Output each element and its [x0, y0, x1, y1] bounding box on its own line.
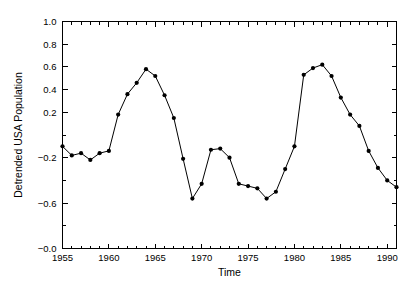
data-point-marker [200, 182, 204, 186]
chart-figure: −0.0−0.6−0.20.20.40.60.81.01955196019651… [0, 0, 415, 297]
x-tick-label: 1965 [145, 252, 166, 263]
data-point-marker [376, 166, 380, 170]
data-point-marker [153, 74, 157, 78]
data-point-marker [79, 151, 83, 155]
plot-area: −0.0−0.6−0.20.20.40.60.81.01955196019651… [12, 16, 399, 278]
data-point-marker [385, 178, 389, 182]
data-point-marker [367, 149, 371, 153]
data-point-marker [190, 196, 194, 200]
x-axis-title: Time [218, 266, 241, 278]
data-point-marker [311, 66, 315, 70]
data-point-marker [116, 112, 120, 116]
data-point-marker [70, 153, 74, 157]
data-point-marker [246, 184, 250, 188]
x-tick-label: 1990 [377, 252, 398, 263]
detrended-usa-population-line-chart: −0.0−0.6−0.20.20.40.60.81.01955196019651… [0, 0, 415, 297]
data-point-marker [292, 144, 296, 148]
y-tick-label: 0.6 [43, 61, 56, 72]
y-tick-label: 1.0 [43, 16, 56, 27]
data-point-marker [302, 73, 306, 77]
data-point-marker [88, 158, 92, 162]
data-point-marker [209, 148, 213, 152]
data-point-marker [107, 149, 111, 153]
y-tick-label: 0.8 [43, 39, 56, 50]
data-point-marker [162, 93, 166, 97]
data-point-marker [320, 63, 324, 67]
data-point-marker [255, 186, 259, 190]
y-axis-title: Detrended USA Population [12, 72, 24, 198]
x-tick-label: 1970 [191, 252, 212, 263]
data-point-marker [283, 167, 287, 171]
data-point-marker [181, 157, 185, 161]
data-point-marker [60, 144, 64, 148]
data-point-marker [274, 190, 278, 194]
data-point-marker [172, 116, 176, 120]
data-point-marker [227, 156, 231, 160]
data-point-marker [394, 185, 398, 189]
data-point-marker [329, 74, 333, 78]
x-tick-label: 1955 [52, 252, 73, 263]
data-point-marker [144, 67, 148, 71]
x-tick-label: 1980 [284, 252, 305, 263]
data-point-marker [265, 196, 269, 200]
series-line-detrended-usa-population [63, 65, 397, 199]
data-point-marker [125, 92, 129, 96]
data-point-marker [135, 81, 139, 85]
y-tick-label: −0.6 [38, 198, 57, 209]
data-point-marker [98, 151, 102, 155]
data-point-marker [339, 95, 343, 99]
data-point-marker [357, 124, 361, 128]
x-tick-label: 1975 [237, 252, 258, 263]
y-tick-label: 0.4 [43, 84, 56, 95]
x-tick-label: 1960 [98, 252, 119, 263]
data-point-marker [348, 112, 352, 116]
data-point-marker [218, 147, 222, 151]
data-point-marker [237, 182, 241, 186]
y-tick-label: 0.2 [43, 107, 56, 118]
x-tick-label: 1985 [330, 252, 351, 263]
y-tick-label: −0.2 [38, 152, 57, 163]
